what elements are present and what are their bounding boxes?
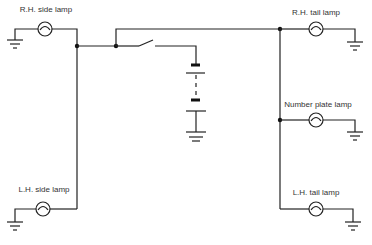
battery-icon xyxy=(186,65,206,141)
lh-tail-lamp xyxy=(280,202,361,230)
number-plate-lamp-label: Number plate lamp xyxy=(284,100,352,109)
rh-tail-lamp-label: R.H. tail lamp xyxy=(292,8,340,17)
lh-side-lamp-label: L.H. side lamp xyxy=(18,185,69,194)
number-plate-lamp xyxy=(280,113,363,140)
lh-tail-lamp-label: L.H. tail lamp xyxy=(293,188,340,197)
switch-icon xyxy=(116,40,196,64)
ground-icon xyxy=(7,40,23,48)
ground-icon xyxy=(7,222,23,230)
rh-side-lamp xyxy=(15,22,77,209)
lh-side-lamp xyxy=(15,202,77,222)
rh-side-lamp-label: R.H. side lamp xyxy=(20,5,72,14)
rh-tail-lamp xyxy=(280,22,363,50)
circuit-diagram xyxy=(0,0,372,245)
